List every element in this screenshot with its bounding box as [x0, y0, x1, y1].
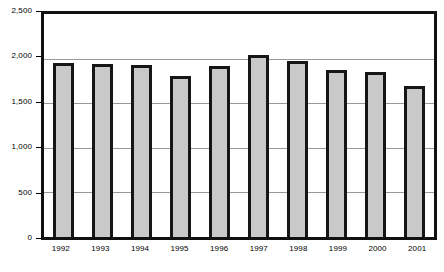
x-axis-label-1995: 1995 [163, 244, 197, 253]
x-axis-labels: 1992 1993 1994 1995 1996 1997 1998 1999 … [41, 244, 437, 258]
y-axis-label-500: 500 [18, 189, 32, 197]
bar-1993 [92, 64, 113, 237]
bar-1996 [209, 66, 230, 237]
x-axis-label-1993: 1993 [83, 244, 117, 253]
x-axis-label-1992: 1992 [44, 244, 78, 253]
bar-1992 [53, 63, 74, 237]
bars-layer [44, 14, 434, 237]
y-axis-label-0: 0 [27, 234, 32, 242]
x-axis-label-1997: 1997 [242, 244, 276, 253]
bar-1994 [131, 65, 152, 237]
bar-1997 [248, 55, 269, 237]
bar-1998 [287, 61, 308, 237]
x-axis-label-2000: 2000 [361, 244, 395, 253]
y-axis-label-1000: 1,000 [11, 143, 32, 151]
x-axis-label-1994: 1994 [123, 244, 157, 253]
y-axis-label-1500: 1,500 [11, 98, 32, 106]
y-axis-label-2000: 2,000 [11, 52, 32, 60]
bar-2001 [404, 86, 425, 237]
plot-area [41, 11, 437, 240]
y-axis-label-2500: 2,500 [11, 7, 32, 15]
bar-1995 [170, 76, 191, 237]
plot-inner [44, 14, 434, 237]
x-axis-label-1998: 1998 [281, 244, 315, 253]
bar-chart: 2,500 2,000 1,500 1,000 500 0 [0, 0, 444, 272]
bar-1999 [326, 70, 347, 237]
x-axis-label-1996: 1996 [202, 244, 236, 253]
y-axis-labels: 2,500 2,000 1,500 1,000 500 0 [0, 0, 34, 272]
x-axis-label-1999: 1999 [321, 244, 355, 253]
bar-2000 [365, 72, 386, 237]
x-axis-label-2001: 2001 [400, 244, 434, 253]
